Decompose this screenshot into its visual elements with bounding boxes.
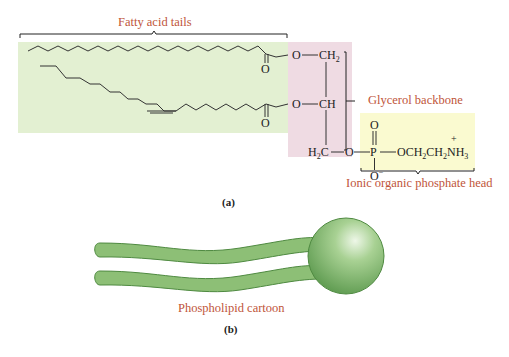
glycerol-ch-middle: CH: [319, 97, 336, 112]
phosphate-oxygen-minus: O−: [370, 168, 383, 184]
cartoon-head: [308, 218, 384, 294]
panel-a-label: (a): [222, 196, 235, 208]
carbonyl-oxygen-top: O: [261, 62, 270, 77]
phosphoryl-oxygen: O: [370, 118, 379, 133]
glycerol-h2c-bottom: H2C: [308, 145, 329, 161]
phosphate-head-label: Ionic organic phosphate head: [346, 176, 493, 191]
ethanolamine-group: OCH2CH2NH3: [397, 145, 468, 161]
unsaturated-tail: [40, 66, 288, 117]
fatty-acid-tails-label: Fatty acid tails: [118, 15, 192, 30]
cartoon-tails: [95, 237, 332, 291]
glycerol-bracket: [344, 52, 355, 150]
bridge-oxygen: O: [345, 145, 354, 160]
cartoon-label: Phospholipid cartoon: [178, 301, 285, 316]
ammonium-plus-charge: +: [451, 133, 457, 144]
carbonyl-oxygen-bottom: O: [261, 116, 270, 131]
glycerol-ch2-top: CH2: [319, 48, 340, 64]
glycerol-backbone-label: Glycerol backbone: [368, 93, 463, 108]
tails-brace: [20, 31, 287, 38]
ester-oxygen-bottom: O: [292, 97, 301, 112]
phosphorus-atom: P: [370, 145, 377, 160]
saturated-tail: [28, 46, 288, 63]
panel-b-label: (b): [224, 323, 237, 335]
ester-oxygen-top: O: [292, 48, 301, 63]
